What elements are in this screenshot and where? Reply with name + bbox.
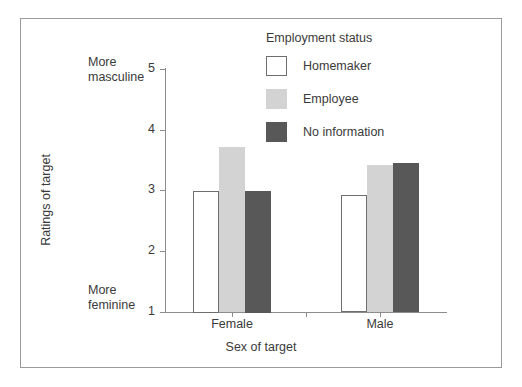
legend-swatch-homemaker — [266, 56, 287, 76]
y-tick-label-1: 1 — [133, 304, 155, 318]
bar-female-no-information[interactable] — [245, 191, 271, 313]
y-axis-title: Ratings of target — [39, 140, 53, 260]
y-tick-mark-1 — [160, 312, 166, 313]
legend-label-employee: Employee — [303, 92, 359, 106]
bar-male-employee[interactable] — [367, 165, 393, 312]
legend-label-homemaker: Homemaker — [303, 59, 371, 73]
bar-female-employee[interactable] — [219, 147, 245, 313]
bar-male-no-information[interactable] — [393, 163, 419, 312]
legend: Employment status Homemaker Employee No … — [266, 31, 384, 155]
legend-label-no-information: No information — [303, 125, 384, 139]
y-low-anchor-line1: More — [88, 283, 116, 297]
x-tick-label-male: Male — [320, 317, 440, 331]
legend-item-homemaker[interactable]: Homemaker — [266, 56, 384, 76]
bar-chart: Moremasculine Morefeminine Ratings of ta… — [0, 0, 522, 387]
x-tick-label-female: Female — [172, 317, 292, 331]
legend-title: Employment status — [266, 31, 384, 45]
y-tick-mark-5 — [160, 69, 166, 70]
x-tick-mark-mid — [306, 312, 307, 317]
legend-swatch-no-information — [266, 122, 287, 142]
legend-item-no-information[interactable]: No information — [266, 122, 384, 142]
y-high-anchor-line1: More — [88, 55, 116, 69]
y-low-anchor-label: Morefeminine — [88, 283, 135, 313]
y-tick-mark-2 — [160, 251, 166, 252]
bar-female-homemaker[interactable] — [193, 191, 219, 313]
bar-male-homemaker[interactable] — [341, 195, 367, 312]
y-tick-label-3: 3 — [133, 182, 155, 196]
y-tick-label-4: 4 — [133, 122, 155, 136]
legend-swatch-employee — [266, 89, 287, 109]
y-tick-label-5: 5 — [133, 61, 155, 75]
legend-item-employee[interactable]: Employee — [266, 89, 384, 109]
x-axis-title: Sex of target — [0, 340, 522, 354]
y-tick-mark-4 — [160, 130, 166, 131]
y-low-anchor-line2: feminine — [88, 298, 135, 312]
y-tick-mark-3 — [160, 190, 166, 191]
y-tick-label-2: 2 — [133, 243, 155, 257]
